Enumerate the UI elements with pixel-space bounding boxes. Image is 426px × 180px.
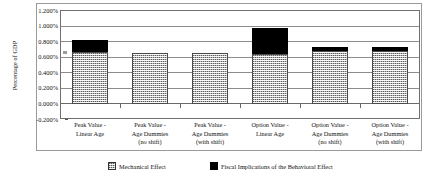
bar-group [72, 10, 108, 104]
bar-group [312, 10, 348, 104]
bar-segment-fiscal-implications [312, 47, 348, 51]
chart-container: Percentage of GDP 1.200%1.000%0.800%0.60… [0, 0, 426, 180]
bar-group [252, 10, 288, 104]
bar-segment-fiscal-implications [252, 28, 288, 54]
y-axis-tick-label: -0.200% [14, 116, 58, 123]
x-axis-tick-label: Peak Value -Age Dummies(no shift) [119, 121, 181, 147]
y-axis-tick-label: 0.800% [14, 38, 58, 45]
y-axis-tick-label: 0.200% [14, 84, 58, 91]
legend-label-mechanical-effect: Mechanical Effect [119, 163, 166, 170]
y-axis-tick-label: 0.000% [14, 100, 58, 107]
y-axis-tick-label: 1.200% [14, 7, 58, 14]
bar-segment-fiscal-implications [372, 47, 408, 51]
x-axis-tick-labels: Peak Value -Linear AgePeak Value -Age Du… [60, 121, 420, 155]
bar-segment-mechanical-effect [192, 53, 228, 104]
legend-swatch-solid-icon [210, 162, 218, 170]
y-axis-tick-label: 0.600% [14, 53, 58, 60]
x-axis-tick-label: Option Value -Linear Age [239, 121, 301, 138]
legend-item-mechanical-effect: Mechanical Effect [108, 162, 166, 170]
bar-segment-mechanical-effect [312, 51, 348, 104]
x-axis-tick-label: Peak Value -Age Dummies(with shift) [179, 121, 241, 147]
legend-label-fiscal-implications: Fiscal Implications of the Behavioral Ef… [221, 163, 333, 170]
bar-group [192, 10, 228, 104]
legend-item-fiscal-implications: Fiscal Implications of the Behavioral Ef… [210, 162, 333, 170]
x-axis-tick-label: Option Value -Age Dummies(no shift) [299, 121, 361, 147]
bars-layer [60, 10, 420, 119]
y-axis-tick-mark [65, 119, 68, 120]
x-axis-tick-mark [300, 104, 301, 108]
bar-group [372, 10, 408, 104]
bar-segment-mechanical-effect [372, 51, 408, 104]
x-axis-tick-mark [360, 104, 361, 108]
x-axis-tick-label: Option Value -Age Dummies(with shift) [359, 121, 421, 147]
bar-segment-mechanical-effect [72, 52, 108, 104]
x-axis-tick-mark [120, 104, 121, 108]
y-axis-tick-label: 1.000% [14, 22, 58, 29]
bar-group [132, 10, 168, 104]
y-axis-tick-labels: 1.200%1.000%0.800%0.600%0.400%0.200%0.00… [8, 10, 58, 119]
x-axis-tick-mark [240, 104, 241, 108]
bar-segment-mechanical-effect [252, 54, 288, 104]
x-axis-tick-label: Peak Value -Linear Age [59, 121, 121, 138]
x-axis-tick-mark [180, 104, 181, 108]
bar-segment-fiscal-implications [72, 40, 108, 52]
chart-legend: Mechanical Effect Fiscal Implications of… [60, 160, 420, 172]
legend-swatch-hatched-icon [108, 162, 116, 170]
bar-segment-mechanical-effect [132, 53, 168, 104]
y-axis-tick-label: 0.400% [14, 69, 58, 76]
